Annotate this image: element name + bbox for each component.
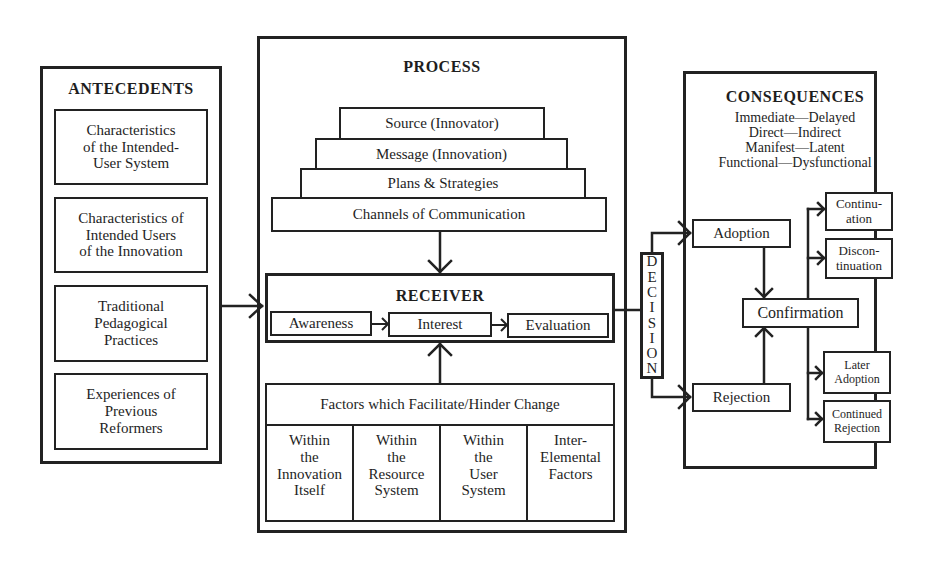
factor-column: Within the Innovation Itself [267,426,354,520]
factor-column: Within the User System [441,426,528,520]
outcome-discontinuation: Discon- tinuation [825,238,893,279]
line: Discon- [838,244,879,259]
consequence-pairs: Immediate—Delayed Direct—Indirect Manife… [683,110,907,170]
pair-functional-dysfunctional: Functional—Dysfunctional [683,155,907,170]
pair-immediate-delayed: Immediate—Delayed [683,110,907,125]
line: System [374,482,418,499]
line: Within [463,432,504,449]
line: Inter- [554,432,587,449]
line: Continu- [836,197,882,212]
adoption-box: Adoption [692,219,791,248]
outcome-continuation: Continu- ation [825,192,893,231]
line: System [461,482,505,499]
decision-letter: D [647,254,658,269]
decision-letter: O [647,346,658,361]
factor-column: Inter- Elemental Factors [528,426,613,520]
line: the [474,449,492,466]
line: the [300,449,318,466]
line: tinuation [836,259,882,274]
line: Within [289,432,330,449]
pair-manifest-latent: Manifest—Latent [683,140,907,155]
decision-letter: E [647,270,656,285]
decision-letter: S [648,316,656,331]
outcome-later-adoption: Later Adoption [823,351,891,394]
line: Factors [548,466,592,483]
line: the [387,449,405,466]
factors-table: Within the Innovation Itself Within the … [265,424,615,522]
factors-header: Factors which Facilitate/Hinder Change [265,383,615,426]
line: User [469,466,497,483]
line: Later [844,359,869,372]
line: Continued [832,408,882,421]
consequences-title: CONSEQUENCES [683,88,907,106]
decision-letter: I [650,300,655,315]
line: Innovation [277,466,342,483]
decision-letter: C [647,285,657,300]
decision-letter: N [647,361,658,376]
rejection-box: Rejection [692,383,791,412]
decision-box: D E C I S I O N [640,252,664,379]
line: Resource [369,466,425,483]
confirmation-box: Confirmation [742,298,859,328]
factor-column: Within the Resource System [354,426,441,520]
pair-direct-indirect: Direct—Indirect [683,125,907,140]
line: Within [376,432,417,449]
line: Rejection [834,422,880,435]
line: ation [846,212,872,227]
decision-letter: I [650,331,655,346]
line: Adoption [834,373,879,386]
line: Elemental [540,449,601,466]
outcome-continued-rejection: Continued Rejection [823,400,891,443]
line: Itself [294,482,325,499]
